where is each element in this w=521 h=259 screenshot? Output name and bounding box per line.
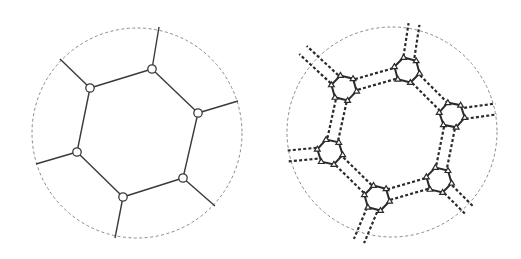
outward-linker bbox=[464, 104, 495, 108]
expanded-network-panel bbox=[287, 23, 497, 243]
ring-linker bbox=[355, 68, 393, 79]
outward-bond bbox=[183, 178, 215, 206]
ring-bond bbox=[77, 88, 90, 152]
ring-bond bbox=[90, 69, 152, 88]
outward-linker bbox=[466, 114, 497, 118]
simple-network-panel bbox=[32, 27, 242, 238]
triangle-icon bbox=[445, 100, 451, 105]
ring-bond bbox=[77, 152, 123, 197]
ring-linker bbox=[327, 100, 335, 139]
boundary-circle bbox=[32, 28, 242, 238]
figure-canvas bbox=[0, 0, 521, 259]
ring-bond bbox=[152, 69, 198, 113]
outward-linker bbox=[452, 185, 474, 207]
triangle-icon bbox=[445, 168, 451, 173]
hexagon-node bbox=[392, 54, 423, 84]
figure bbox=[0, 0, 521, 259]
ring-linker bbox=[420, 75, 447, 102]
triangle-icon bbox=[371, 183, 377, 188]
ring-linker bbox=[335, 165, 363, 193]
outward-linker bbox=[299, 54, 330, 83]
node-circle bbox=[148, 65, 156, 73]
triangle-icon bbox=[383, 186, 389, 191]
node-circle bbox=[194, 109, 202, 117]
triangle-icon bbox=[401, 54, 407, 59]
outward-linker bbox=[444, 193, 466, 215]
ring-linker bbox=[412, 83, 439, 110]
outward-bond bbox=[60, 59, 90, 88]
ring-bond bbox=[123, 178, 183, 197]
node-circle bbox=[179, 174, 187, 182]
hexagon-node bbox=[423, 165, 454, 195]
triangle-icon bbox=[338, 73, 344, 78]
outward-linker bbox=[307, 46, 338, 75]
ring-linker bbox=[358, 79, 396, 90]
ring-linker bbox=[436, 127, 444, 167]
ring-linker bbox=[391, 189, 428, 200]
ring-linker bbox=[447, 129, 455, 169]
hexagon-node bbox=[328, 73, 359, 103]
outward-linker bbox=[354, 208, 367, 239]
hexagon-node bbox=[436, 100, 467, 129]
node-circle bbox=[73, 148, 81, 156]
triangle-icon bbox=[350, 76, 356, 81]
outward-linker bbox=[364, 212, 377, 243]
outward-bond bbox=[198, 101, 238, 113]
ring-linker bbox=[343, 157, 371, 185]
outward-linker bbox=[287, 148, 316, 151]
outward-linker bbox=[289, 159, 318, 162]
hexagon-node bbox=[362, 183, 393, 213]
outward-bond bbox=[115, 197, 123, 238]
outward-bond bbox=[152, 27, 159, 69]
hexagon-node bbox=[314, 137, 345, 167]
ring-linker bbox=[388, 178, 425, 189]
ring-bond bbox=[183, 113, 198, 178]
ring-linker bbox=[338, 102, 346, 141]
triangle-icon bbox=[458, 102, 464, 107]
triangle-icon bbox=[336, 139, 342, 144]
node-circle bbox=[119, 193, 127, 201]
outward-bond bbox=[36, 152, 77, 164]
boundary-circle bbox=[287, 27, 497, 237]
triangle-icon bbox=[413, 58, 419, 63]
node-circle bbox=[86, 84, 94, 92]
